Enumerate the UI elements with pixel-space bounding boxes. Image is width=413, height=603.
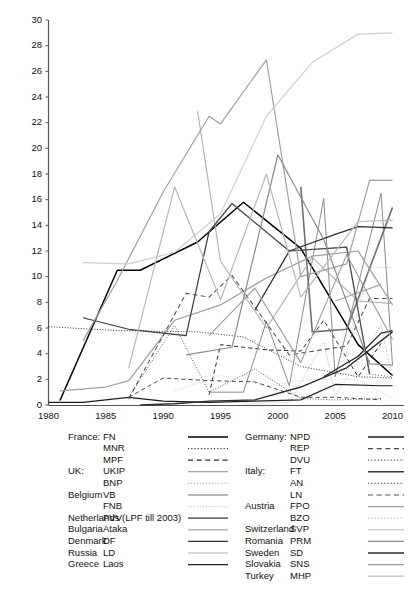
x-tick-label: 2005 <box>325 410 346 421</box>
legend-country-label: Bulgaria <box>68 523 104 534</box>
y-tick-label: 18 <box>31 168 42 179</box>
y-tick-label: 10 <box>31 270 42 281</box>
legend-party-label-mpf: MPF <box>103 454 123 465</box>
legend-country-label: UK: <box>68 465 84 476</box>
series-line-dvu <box>129 325 381 399</box>
chart-container: 024681012141618202224262830 198019851990… <box>0 0 413 603</box>
legend-party-label-ld: LD <box>103 547 115 558</box>
legend-party-label-npd: NPD <box>290 431 310 442</box>
legend-party-label-sd: SD <box>290 547 303 558</box>
y-tick-label: 30 <box>31 14 42 25</box>
legend-country-label: Italy: <box>245 465 265 476</box>
x-tick-label: 1995 <box>210 410 231 421</box>
y-axis-tick-labels: 024681012141618202224262830 <box>31 14 48 410</box>
series-line-rep <box>129 378 381 400</box>
y-tick-label: 20 <box>31 142 42 153</box>
legend-party-label-an: AN <box>290 477 303 488</box>
x-tick-label: 1990 <box>153 410 174 421</box>
legend-country-label: Turkey <box>245 570 274 581</box>
x-tick-label: 2000 <box>267 410 288 421</box>
y-tick-label: 6 <box>37 322 42 333</box>
x-tick-label: 2010 <box>382 410 403 421</box>
series-line-sd <box>140 332 392 405</box>
legend-party-label-pvv-lpf-till-2003: PVV(LPF till 2003) <box>103 512 181 523</box>
legend-country-label: Russia <box>68 547 98 558</box>
legend-party-label-ataka: Ataka <box>103 523 128 534</box>
y-tick-label: 22 <box>31 116 42 127</box>
x-tick-label: 1985 <box>95 410 116 421</box>
legend-country-label: Greece <box>68 558 99 569</box>
y-tick-label: 14 <box>31 219 42 230</box>
y-tick-label: 12 <box>31 245 42 256</box>
y-tick-label: 8 <box>37 296 42 307</box>
legend-party-label-ukip: UKIP <box>103 465 125 476</box>
legend-party-label-mhp: MHP <box>290 570 311 581</box>
legend-party-label-laos: Laos <box>103 558 124 569</box>
legend-country-label: Denmark <box>68 535 107 546</box>
series-line-fnb <box>175 375 393 398</box>
line-chart: 024681012141618202224262830 198019851990… <box>0 0 413 603</box>
legend-country-label: Romania <box>245 535 284 546</box>
legend-party-label-ft: FT <box>290 465 302 476</box>
legend-party-label-svp: SVP <box>290 523 309 534</box>
legend-party-label-sns: SNS <box>290 558 310 569</box>
y-tick-label: 26 <box>31 65 42 76</box>
legend-party-label-fnb: FNB <box>103 500 122 511</box>
legend-party-label-bzo: BZO <box>290 512 310 523</box>
chart-legend: France:FNMNRMPFUK:UKIPBNPBelgiumVBFNBNet… <box>68 431 404 581</box>
legend-party-label-prm: PRM <box>290 535 311 546</box>
legend-party-label-bnp: BNP <box>103 477 123 488</box>
y-tick-label: 2 <box>37 373 42 384</box>
y-tick-label: 4 <box>37 347 42 358</box>
legend-party-label-ln: LN <box>290 489 302 500</box>
legend-party-label-fpo: FPO <box>290 500 310 511</box>
x-axis-tick-labels: 1980198519901995200020052010 <box>38 410 403 421</box>
data-series-group <box>49 33 393 405</box>
y-tick-label: 28 <box>31 39 42 50</box>
y-tick-label: 24 <box>31 91 42 102</box>
legend-party-label-df: DF <box>103 535 116 546</box>
legend-party-label-mnr: MNR <box>103 442 125 453</box>
series-line-ld <box>198 111 393 328</box>
series-line-prm <box>186 155 392 365</box>
legend-country-label: Germany: <box>245 431 287 442</box>
legend-party-label-vb: VB <box>103 489 116 500</box>
legend-country-label: France: <box>68 431 100 442</box>
legend-country-label: Slovakia <box>245 558 282 569</box>
legend-country-label: Sweden <box>245 547 279 558</box>
y-tick-label: 16 <box>31 193 42 204</box>
legend-country-label: Austria <box>245 500 275 511</box>
legend-party-label-fn: FN <box>103 431 116 442</box>
legend-country-label: Belgium <box>68 489 102 500</box>
series-line-svp <box>83 33 393 264</box>
legend-party-label-dvu: DVU <box>290 454 310 465</box>
legend-party-label-rep: REP <box>290 442 310 453</box>
legend-country-label: Switzerland <box>245 523 294 534</box>
y-tick-label: 0 <box>37 399 42 410</box>
x-tick-label: 1980 <box>38 410 59 421</box>
